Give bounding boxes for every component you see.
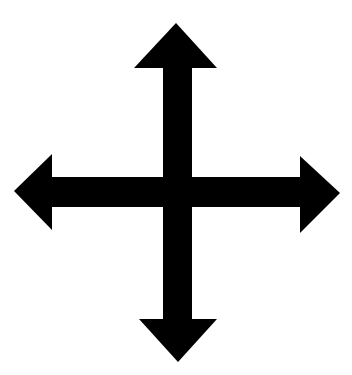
arrow-up-icon bbox=[134, 23, 217, 68]
horizontal-shaft bbox=[50, 177, 302, 207]
arrow-down-icon bbox=[139, 319, 217, 362]
arrow-right-icon bbox=[300, 156, 340, 233]
arrow-left-icon bbox=[14, 154, 52, 230]
four-way-arrow-figure: four-way arrow bbox=[0, 0, 352, 375]
move-arrows-icon bbox=[0, 0, 352, 375]
